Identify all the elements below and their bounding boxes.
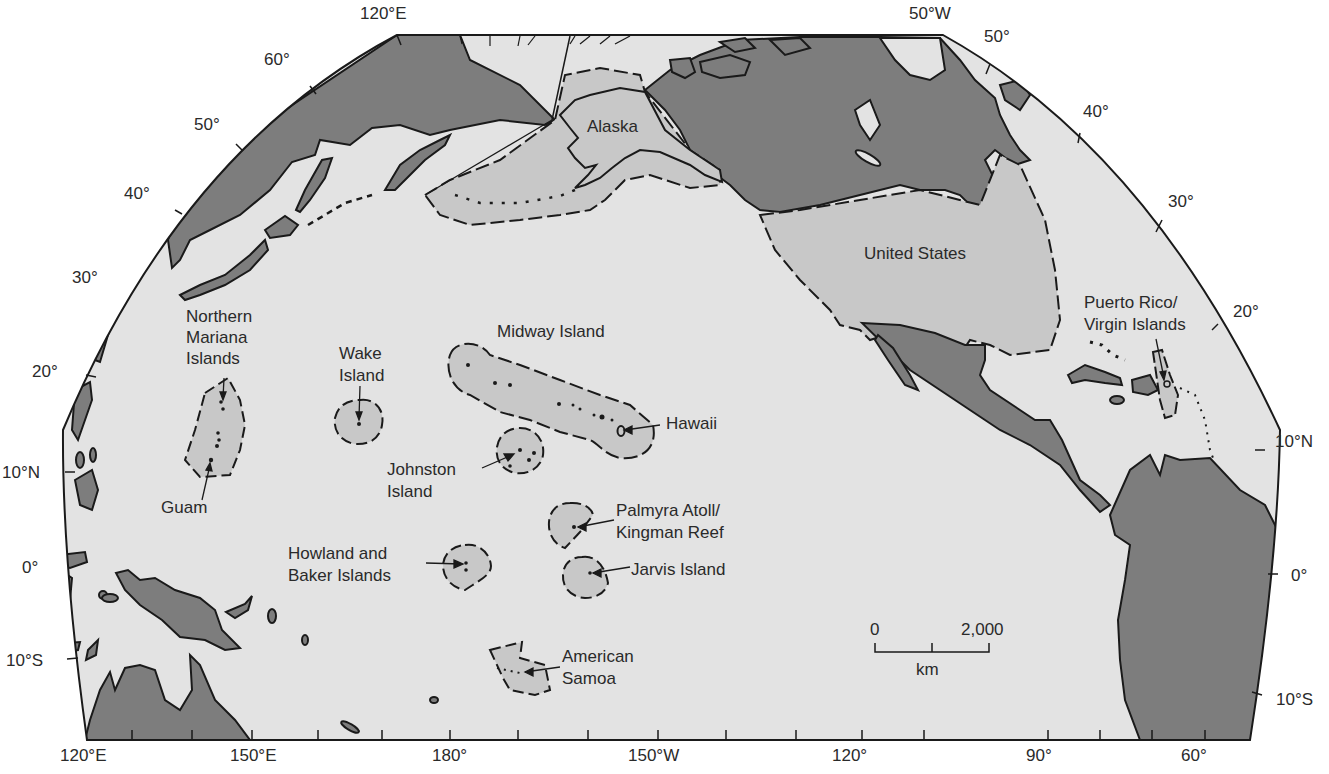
grid-label-top-50w: 50°W — [909, 4, 951, 24]
grid-label-top-120e: 120°E — [360, 4, 407, 24]
grid-label-left-40: 40° — [124, 184, 150, 204]
label-wake: Wake Island — [339, 343, 384, 387]
label-jarvis: Jarvis Island — [631, 560, 725, 580]
jarvis-dot — [588, 571, 592, 575]
label-palmyra: Palmyra Atoll/ Kingman Reef — [616, 500, 724, 544]
label-line: Palmyra Atoll/ — [616, 500, 724, 522]
map: Alaska United States Northern Mariana Is… — [0, 0, 1329, 774]
land-vanuatu — [302, 635, 308, 645]
palmyra-dot — [572, 525, 576, 529]
grid-label-right-20: 20° — [1233, 302, 1259, 322]
grid-label-right-30: 30° — [1168, 192, 1194, 212]
land-timor — [66, 642, 80, 652]
scale-end-label: 2,000 — [961, 620, 1004, 640]
grid-label-left-10n: 10°N — [2, 463, 40, 483]
grid-label-bottom-150w: 150°W — [628, 746, 679, 766]
label-midway: Midway Island — [497, 322, 605, 342]
label-line: Wake — [339, 343, 384, 365]
grid-label-left-30: 30° — [72, 268, 98, 288]
label-howland-baker: Howland and Baker Islands — [288, 543, 391, 587]
scale-start-label: 0 — [870, 620, 879, 640]
label-line: Puerto Rico/ — [1084, 292, 1186, 314]
land-bougainville — [268, 609, 276, 623]
grid-label-bottom-60: 60° — [1181, 746, 1207, 766]
label-line: Virgin Islands — [1084, 314, 1186, 336]
baker-dot — [464, 568, 468, 572]
label-line: American — [562, 646, 634, 668]
grid-label-right-0: 0° — [1291, 566, 1307, 586]
label-line: Samoa — [562, 668, 634, 690]
grid-label-bottom-120: 120° — [832, 746, 867, 766]
label-line: Kingman Reef — [616, 522, 724, 544]
grid-label-right-10n: 10°N — [1275, 432, 1313, 452]
grid-label-left-60: 60° — [264, 50, 290, 70]
grid-label-left-10s: 10°S — [6, 651, 43, 671]
scale-unit-label: km — [916, 660, 939, 680]
label-line: Baker Islands — [288, 565, 391, 587]
grid-label-right-40: 40° — [1083, 102, 1109, 122]
label-line: Johnston — [387, 459, 456, 481]
label-line: Island — [339, 365, 384, 387]
land-island — [90, 448, 96, 462]
land-fiji — [430, 697, 438, 703]
grid-label-right-10s: 10°S — [1276, 690, 1313, 710]
label-line: Island — [387, 481, 456, 503]
grid-label-bottom-90: 90° — [1026, 746, 1052, 766]
label-line: Howland and — [288, 543, 391, 565]
land-island — [102, 594, 118, 602]
label-hawaii: Hawaii — [666, 414, 717, 434]
wake-dot — [357, 422, 361, 426]
label-line: Islands — [186, 348, 252, 369]
label-northern-mariana: Northern Mariana Islands — [186, 306, 252, 369]
label-line: Mariana — [186, 327, 252, 348]
label-guam: Guam — [161, 498, 207, 518]
grid-label-bottom-180: 180° — [432, 746, 467, 766]
grid-label-bottom-150e: 150°E — [230, 746, 277, 766]
label-line: Northern — [186, 306, 252, 327]
label-puerto-rico: Puerto Rico/ Virgin Islands — [1084, 292, 1186, 336]
grid-label-left-50: 50° — [194, 115, 220, 135]
label-united-states: United States — [864, 244, 966, 264]
label-american-samoa: American Samoa — [562, 646, 634, 690]
label-alaska: Alaska — [587, 117, 638, 137]
howland-dot — [464, 561, 468, 565]
wake-territory — [335, 400, 383, 444]
grid-label-right-50: 50° — [984, 27, 1010, 47]
grid-label-left-0: 0° — [22, 558, 38, 578]
grid-label-left-20: 20° — [32, 362, 58, 382]
grid-label-bottom-120e: 120°E — [60, 746, 107, 766]
label-johnston: Johnston Island — [387, 459, 456, 503]
land-palau — [76, 452, 84, 468]
land-south-america — [1110, 455, 1280, 740]
land-jamaica — [1110, 396, 1124, 404]
